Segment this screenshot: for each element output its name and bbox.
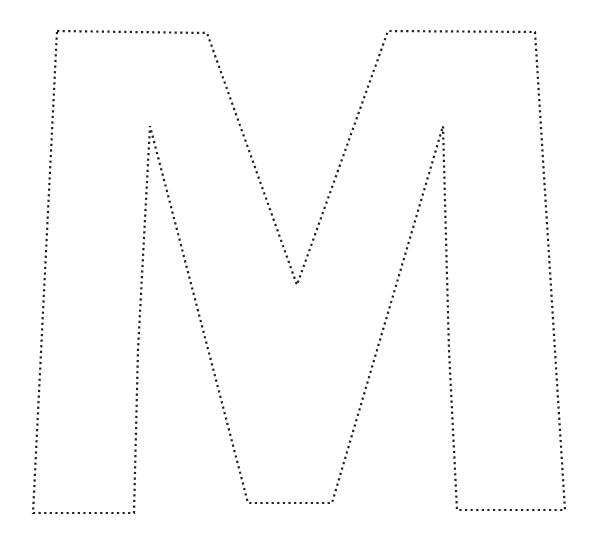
letter-m-outline-svg [0, 0, 597, 538]
canvas-background [0, 0, 597, 538]
page-canvas: Dotted Letter M Tracing Outline [0, 0, 597, 538]
